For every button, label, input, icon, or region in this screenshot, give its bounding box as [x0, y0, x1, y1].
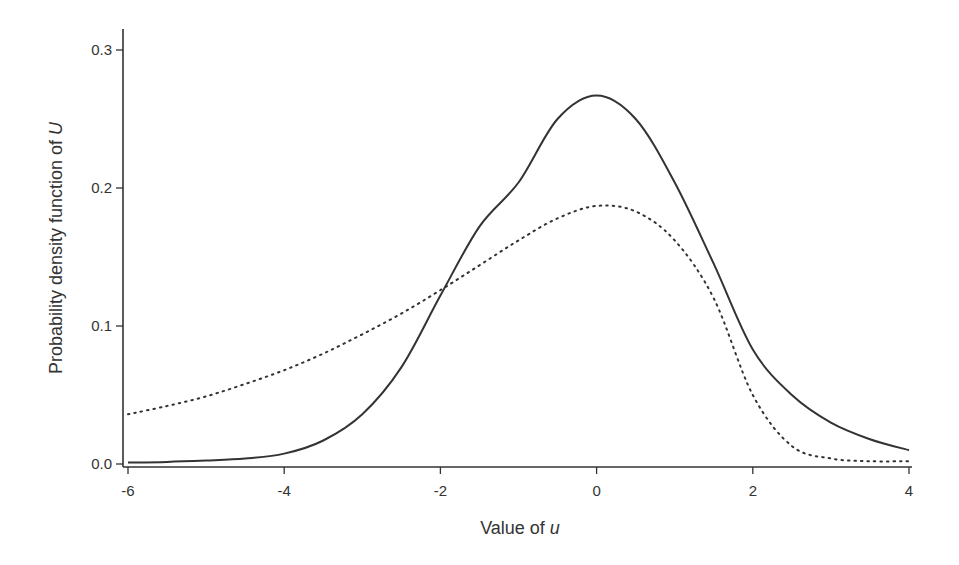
x-tick-label: 4 [905, 482, 913, 499]
y-axis-ticks: 0.00.10.20.3 [91, 41, 123, 472]
y-tick-label: 0.0 [91, 455, 112, 472]
series-dotted-line [128, 205, 909, 461]
x-axis-ticks: -6-4-2024 [121, 467, 913, 499]
y-axis-title: Probability density function of U [46, 121, 66, 374]
x-tick-label: 0 [592, 482, 600, 499]
x-tick-label: -6 [121, 482, 134, 499]
series-solid-line [128, 96, 909, 463]
x-tick-label: 2 [749, 482, 757, 499]
x-tick-label: -4 [278, 482, 291, 499]
y-tick-label: 0.3 [91, 41, 112, 58]
x-tick-label: -2 [434, 482, 447, 499]
density-chart: 0.00.10.20.3 -6-4-2024 Value of u Probab… [0, 0, 959, 565]
y-tick-label: 0.1 [91, 317, 112, 334]
x-axis-title: Value of u [480, 518, 560, 538]
y-tick-label: 0.2 [91, 179, 112, 196]
plot-area [128, 96, 909, 463]
